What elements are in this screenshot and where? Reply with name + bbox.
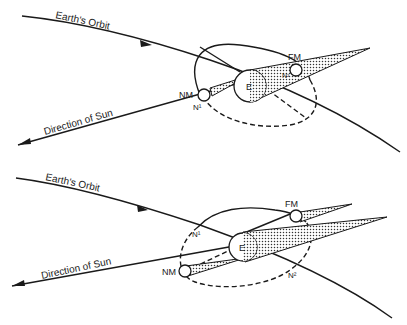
top-panel: Earth's Orbit Direction of Sun E FM NM N… xyxy=(18,9,400,152)
earth-shadow-cone xyxy=(250,48,370,102)
sun-arrow-icon xyxy=(12,280,25,286)
full-moon-shadow-cone xyxy=(300,204,352,222)
node2-label: N² xyxy=(282,72,290,79)
node1-label: N¹ xyxy=(192,230,201,239)
eclipse-diagram: Earth's Orbit Direction of Sun E FM NM N… xyxy=(0,0,407,325)
new-moon-label: NM xyxy=(162,267,176,277)
earth-shadow-cone xyxy=(243,217,387,262)
sun-arrow-icon xyxy=(18,138,31,145)
radial-dashed-line xyxy=(268,90,306,118)
full-moon-label: FM xyxy=(288,52,301,62)
new-moon-label: NM xyxy=(179,90,193,100)
orbit-label: Earth's Orbit xyxy=(45,171,102,193)
radial-line xyxy=(200,47,240,72)
earth-label: E xyxy=(239,243,245,253)
node1-label: N¹ xyxy=(193,103,202,112)
earth-label: E xyxy=(246,82,252,92)
new-moon-shadow-cone xyxy=(186,258,245,276)
earth-orbit-line xyxy=(22,16,400,152)
sun-direction-label: Direction of Sun xyxy=(40,255,112,281)
full-moon-circle xyxy=(290,210,302,222)
new-moon-circle xyxy=(179,265,191,277)
full-moon-label: FM xyxy=(285,199,298,209)
earth-orbit-line xyxy=(16,178,392,318)
full-moon-circle xyxy=(290,64,302,76)
orbit-label: Earth's Orbit xyxy=(55,9,112,31)
node2-label: N² xyxy=(288,271,297,280)
bottom-panel: Earth's Orbit Direction of Sun E FM NM N… xyxy=(12,171,392,318)
new-moon-circle xyxy=(198,89,210,101)
